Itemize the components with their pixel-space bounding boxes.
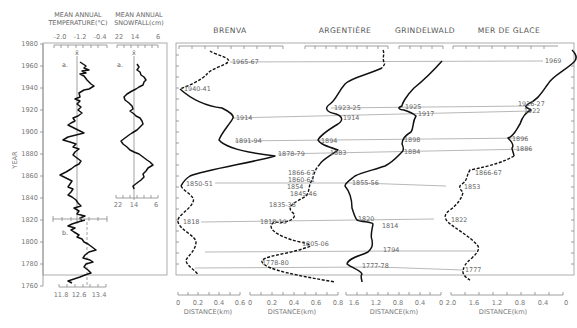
brenva-tick: 0.4 — [214, 299, 225, 307]
brenva-xlabel: DISTANCE(km) — [184, 308, 232, 316]
snowfall-bottom-tick: 14 — [130, 201, 138, 209]
temperature-tick: -1.2 — [74, 33, 87, 41]
brenva-front-dashed-top — [180, 51, 229, 89]
brenva-label-1818: 1818 — [183, 218, 199, 226]
grindelwald-label-1917: 1917 — [418, 110, 434, 118]
grindelwald-label-1884: 1884 — [404, 148, 420, 156]
argentiere-label-1845-46: 1845-46 — [290, 190, 317, 198]
year-tick: 1840 — [21, 194, 38, 202]
grindelwald-label-1855-56: 1855-56 — [352, 179, 379, 187]
snowfall-mean-marker: x̄ — [132, 49, 136, 57]
grindelwald-label-1777-78: 1777-78 — [362, 262, 389, 270]
mer-de-glace-title: MER DE GLACE — [478, 26, 540, 35]
grindelwald-tick: 1.6 — [349, 299, 360, 307]
glacier-panel: BRENVA ARGENTIÈRE GRINDELWALD MER DE GLA… — [176, 25, 576, 316]
glacier-panel-frame — [176, 43, 574, 275]
mer-de-glace-tick: 1.6 — [469, 299, 480, 307]
brenva-front-dashed-bottom — [178, 186, 198, 275]
grindelwald-xlabel: DISTANCE(km) — [370, 308, 418, 316]
argentiere-tick: 0.2 — [267, 299, 278, 307]
argentiere-label-1894: 1894 — [321, 137, 337, 145]
year-tick: 1760 — [21, 282, 38, 290]
grindelwald-tick: 0.4 — [415, 299, 426, 307]
glacier-bottom-axes — [178, 292, 563, 295]
argentiere-label-1835-36: 1835-36 — [269, 201, 296, 209]
temperature-mean-marker: x̄ — [75, 49, 79, 57]
temperature-b-tick: 12.6 — [72, 291, 87, 299]
argentiere-label-1818-19: 1818-19 — [260, 218, 287, 226]
panel-a-label: a. — [62, 61, 68, 69]
glacier-year-ticks — [176, 55, 574, 264]
brenva-tick: 0 — [176, 299, 180, 307]
year-tick: 1960 — [21, 62, 38, 70]
argentiere-tick: 0 — [248, 299, 252, 307]
mer-de-glace-tick: 2.0 — [446, 299, 457, 307]
argentiere-label-1883: 1883 — [330, 149, 346, 157]
grindelwald-label-1794: 1794 — [383, 246, 399, 254]
snowfall-top-axis — [117, 45, 158, 48]
argentiere-label-1778-80: 1778-80 — [262, 259, 289, 267]
grindelwald-tick: 0 — [439, 299, 443, 307]
temperature-b-tick: 13.4 — [92, 291, 107, 299]
year-tick: 1980 — [21, 40, 38, 48]
mer-de-glace-label-1853: 1853 — [464, 183, 480, 191]
temperature-tick: -2.0 — [54, 33, 67, 41]
argentiere-label-1914: 1914 — [343, 114, 359, 122]
snowfall-bottom-tick: 22 — [114, 201, 122, 209]
brenva-label-1891-94: 1891-94 — [235, 137, 262, 145]
climate-panel: 1980 1960 1940 1920 1900 1880 1860 1840 … — [11, 11, 167, 299]
brenva-label-1914: 1914 — [236, 114, 252, 122]
snowfall-series — [121, 64, 153, 189]
year-axis-label: YEAR — [11, 151, 19, 170]
mer-de-glace-label-1969: 1969 — [545, 57, 561, 65]
grindelwald-tick: 1.2 — [371, 299, 382, 307]
mer-de-glace-tick: 0.8 — [515, 299, 526, 307]
grindelwald-title: GRINDELWALD — [395, 26, 455, 35]
brenva-label-1850-51: 1850-51 — [186, 180, 213, 188]
mer-de-glace-label-1896: 1896 — [512, 135, 528, 143]
brenva-tick: 0.6 — [235, 299, 246, 307]
argentiere-front-dashed-top — [382, 50, 385, 68]
snowfall-title-line2: SNOWFALL(cm) — [114, 19, 164, 27]
year-tick: 1940 — [21, 84, 38, 92]
year-tick: 1880 — [21, 150, 38, 158]
mer-de-glace-tick: 0.4 — [538, 299, 549, 307]
argentiere-tick: 0.8 — [333, 299, 344, 307]
year-tick: 1820 — [21, 216, 38, 224]
argentiere-label-1923-25: 1923-25 — [334, 104, 361, 112]
mer-de-glace-tick: 0 — [564, 299, 568, 307]
snowfall-tick: 22 — [115, 33, 123, 41]
mer-de-glace-tick: 1.2 — [492, 299, 503, 307]
mer-de-glace-label-1777: 1777 — [465, 266, 481, 274]
brenva-label-1965-67: 1965-67 — [232, 58, 259, 66]
temperature-title-line2: TEMPERATURE(°C) — [47, 19, 107, 27]
argentiere-tick: 0.4 — [289, 299, 300, 307]
mer-de-glace-label-1866-67: 1866-67 — [475, 169, 502, 177]
grindelwald-label-1820: 1820 — [358, 215, 374, 223]
glacier-climate-figure: 1980 1960 1940 1920 1900 1880 1860 1840 … — [0, 0, 577, 328]
grindelwald-label-1898: 1898 — [404, 136, 420, 144]
climate-panel-frame — [43, 43, 167, 275]
argentiere-title: ARGENTIÈRE — [319, 25, 372, 35]
mer-de-glace-xlabel: DISTANCE(km) — [479, 308, 527, 316]
temperature-b-tick: 11.8 — [54, 291, 69, 299]
temperature-tick: -0.4 — [94, 33, 107, 41]
snowfall-tick: 14 — [131, 33, 139, 41]
grindelwald-label-1814: 1814 — [382, 222, 398, 230]
year-tick: 1800 — [21, 238, 38, 246]
mer-de-glace-label-1886: 1886 — [516, 145, 532, 153]
year-tick: 1780 — [21, 260, 38, 268]
snowfall-title-line1: MEAN ANNUAL — [115, 11, 163, 19]
brenva-label-1878-79: 1878-79 — [278, 150, 305, 158]
temperature-top-axis — [54, 45, 107, 48]
year-tick: 1920 — [21, 106, 38, 114]
year-tick: 1900 — [21, 128, 38, 136]
brenva-tick: 0.2 — [193, 299, 204, 307]
panel-a-label-snow: a. — [117, 61, 123, 69]
snowfall-bottom-axis — [116, 195, 158, 198]
glacier-top-axes — [179, 46, 558, 49]
argentiere-tick: 0.6 — [311, 299, 322, 307]
temperature-b-bottom-axis — [59, 284, 106, 287]
year-tick: 1860 — [21, 172, 38, 180]
snowfall-bottom-tick: 6 — [154, 201, 158, 209]
